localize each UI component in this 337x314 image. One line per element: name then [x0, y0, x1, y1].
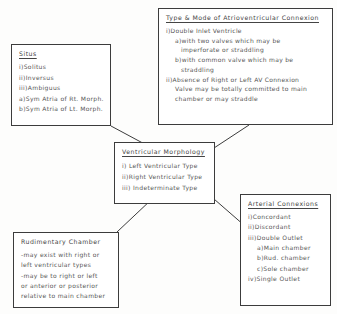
- node-line: a)Sym Atria of Rt. Morph.: [19, 94, 104, 105]
- node-title-atrioventricular: Type & Mode of Atrioventricular Connexio…: [166, 14, 326, 21]
- node-title-situs: Situs: [19, 50, 104, 57]
- node-line: b)Sym Atria of Lt. Morph.: [19, 104, 104, 115]
- node-title-arterial: Arterial Connexions: [248, 200, 324, 207]
- node-line: a)Main chamber: [257, 243, 324, 253]
- node-line: ii)Right Ventricular Type: [122, 171, 208, 182]
- node-line: or anterior or posterior: [21, 281, 112, 291]
- node-line: left ventricular types: [21, 260, 112, 270]
- node-line: a)with two valves which may be: [175, 36, 326, 46]
- node-line: iii)Double Outlet: [248, 233, 324, 243]
- node-ventricular-morphology: Ventricular Morphology i) Left Ventricul…: [114, 142, 215, 204]
- connector-atrioventricular-to-ventricular: [214, 125, 249, 148]
- node-line: c)Sole chamber: [257, 264, 324, 274]
- node-line: iii)Ambiguus: [19, 83, 104, 94]
- node-rudimentary-chamber: Rudimentary Chamber -may exist with righ…: [13, 232, 119, 308]
- node-line: i) Left Ventricular Type: [122, 160, 208, 171]
- diagram-canvas: Type & Mode of Atrioventricular Connexio…: [0, 0, 337, 314]
- node-atrioventricular-connexion: Type & Mode of Atrioventricular Connexio…: [158, 8, 333, 125]
- node-line: i)Double Inlet Ventricle: [166, 26, 326, 36]
- node-line: b)with common valve which may be: [175, 55, 326, 65]
- node-line: iv)Single Outlet: [248, 274, 324, 284]
- node-line: -may exist with right or: [21, 250, 112, 260]
- node-line: ii)Inversus: [19, 73, 104, 84]
- node-line: ii)Absence of Right or Left AV Connexion: [166, 75, 326, 85]
- node-title-ventricular: Ventricular Morphology: [122, 148, 208, 155]
- node-line: Valve may be totally committed to main: [175, 84, 326, 94]
- node-line: straddling: [181, 65, 326, 75]
- node-line: relative to main chamber: [21, 291, 112, 301]
- node-arterial-connexions: Arterial Connexions i)Concordant ii)Disc…: [240, 194, 331, 306]
- node-title-rudimentary: Rudimentary Chamber: [21, 238, 112, 245]
- node-line: imperforate or straddling: [181, 45, 326, 55]
- node-line: i)Concordant: [248, 212, 324, 222]
- node-situs: Situs i)Solitus ii)Inversus iii)Ambiguus…: [11, 44, 111, 126]
- node-line: i)Solitus: [19, 62, 104, 73]
- node-line: b)Rud. chamber: [257, 253, 324, 263]
- node-line: chamber or may straddle: [175, 94, 326, 104]
- node-line: ii)Discordant: [248, 222, 324, 232]
- node-line: -may be to right or left: [21, 271, 112, 281]
- node-line: iii) Indeterminate Type: [122, 182, 208, 193]
